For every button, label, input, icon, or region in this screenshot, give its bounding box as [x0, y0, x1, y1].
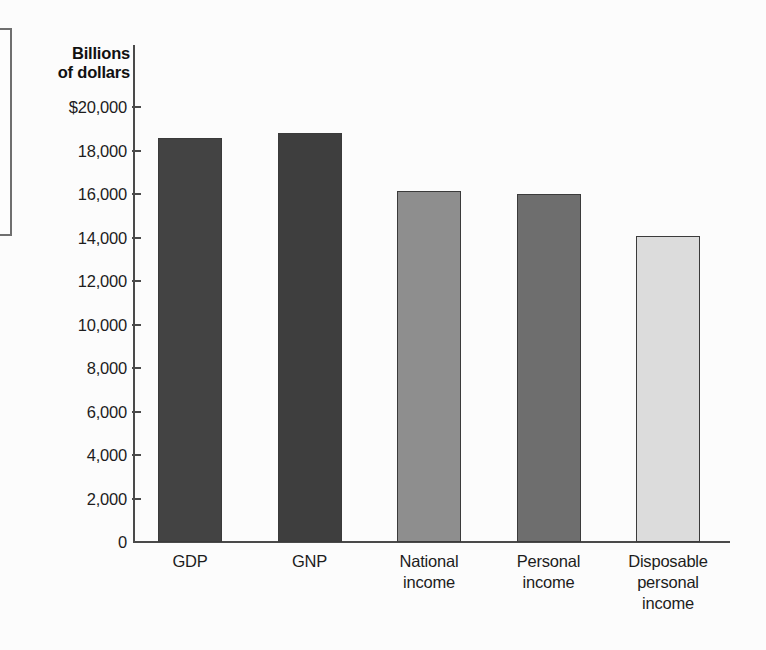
category-label-line: personal — [608, 572, 728, 593]
category-label-national-income: Nationalincome — [369, 551, 489, 593]
y-tick-label: 0 — [7, 532, 127, 552]
y-tick-mark — [132, 237, 141, 239]
category-label-line: GNP — [250, 551, 370, 572]
y-tick-10000: 10,000 — [0, 315, 147, 335]
y-tick-mark — [132, 498, 141, 500]
category-label-line: income — [608, 593, 728, 614]
y-tick-label: 12,000 — [7, 271, 127, 291]
y-tick-14000: 14,000 — [0, 228, 147, 248]
bar-gnp — [278, 133, 342, 542]
category-label-line: GDP — [130, 551, 250, 572]
y-axis-title-line2: of dollars — [22, 63, 130, 82]
y-tick-0: 0 — [0, 532, 147, 552]
y-tick-label: 6,000 — [7, 402, 127, 422]
category-label-disposable-personal-income: Disposablepersonalincome — [608, 551, 728, 614]
y-axis-title-line1: Billions — [22, 44, 130, 63]
y-tick-mark — [132, 280, 141, 282]
category-label-line: Disposable — [608, 551, 728, 572]
category-label-gdp: GDP — [130, 551, 250, 572]
y-tick-4000: 4,000 — [0, 445, 147, 465]
y-tick-label: 18,000 — [7, 141, 127, 161]
y-tick-mark — [132, 106, 141, 108]
y-tick-6000: 6,000 — [0, 402, 147, 422]
y-tick-mark — [132, 367, 141, 369]
category-label-line: income — [369, 572, 489, 593]
y-tick-mark — [132, 411, 141, 413]
category-label-line: National — [369, 551, 489, 572]
y-axis-line — [133, 45, 135, 543]
category-label-line: Personal — [489, 551, 609, 572]
y-tick-12000: 12,000 — [0, 271, 147, 291]
y-tick-16000: 16,000 — [0, 184, 147, 204]
bar-national-income — [397, 191, 461, 542]
bar-chart: Billions of dollars $20,00018,00016,0001… — [0, 0, 766, 650]
y-tick-18000: 18,000 — [0, 141, 147, 161]
bar-personal-income — [517, 194, 581, 542]
bar-gdp — [158, 138, 222, 542]
category-label-personal-income: Personalincome — [489, 551, 609, 593]
y-axis-title: Billions of dollars — [22, 44, 130, 82]
y-tick-8000: 8,000 — [0, 358, 147, 378]
y-tick-label: $20,000 — [7, 97, 127, 117]
category-label-line: income — [489, 572, 609, 593]
y-tick-mark — [132, 193, 141, 195]
y-tick-label: 8,000 — [7, 358, 127, 378]
y-tick-mark — [132, 150, 141, 152]
y-tick-20000: $20,000 — [0, 97, 147, 117]
y-tick-label: 10,000 — [7, 315, 127, 335]
y-tick-label: 14,000 — [7, 228, 127, 248]
category-label-gnp: GNP — [250, 551, 370, 572]
y-tick-label: 4,000 — [7, 445, 127, 465]
y-tick-label: 2,000 — [7, 489, 127, 509]
y-tick-label: 16,000 — [7, 184, 127, 204]
y-tick-mark — [132, 454, 141, 456]
y-tick-2000: 2,000 — [0, 489, 147, 509]
y-tick-mark — [132, 324, 141, 326]
bar-disposable-personal-income — [636, 236, 700, 542]
